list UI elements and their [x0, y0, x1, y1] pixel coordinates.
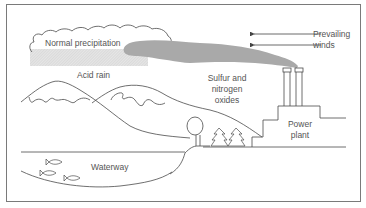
fish-icon: [40, 159, 80, 181]
power-plant-label-line2: plant: [280, 130, 320, 140]
sulfur-oxides-label-line2: nitrogen: [192, 84, 262, 94]
normal-precipitation-label: Normal precipitation: [45, 38, 121, 48]
waterway-label: Waterway: [91, 162, 128, 172]
plume: [124, 40, 298, 68]
wind-arrows-icon: [254, 34, 321, 45]
tree-icon: [187, 117, 203, 146]
acid-rain-label: Acid rain: [77, 70, 110, 80]
prevailing-winds-label-line2: winds: [313, 40, 335, 50]
smokestacks-icon: [283, 68, 303, 106]
power-plant-label-line1: Power: [280, 119, 320, 129]
pine-trees-icon: [211, 128, 245, 146]
prevailing-winds-label-line1: Prevailing: [313, 29, 350, 39]
sulfur-oxides-label-line3: oxides: [192, 95, 262, 105]
ground-icon: [170, 146, 210, 174]
acid-rain-diagram: [0, 0, 366, 208]
sulfur-oxides-label-line1: Sulfur and: [192, 73, 262, 83]
